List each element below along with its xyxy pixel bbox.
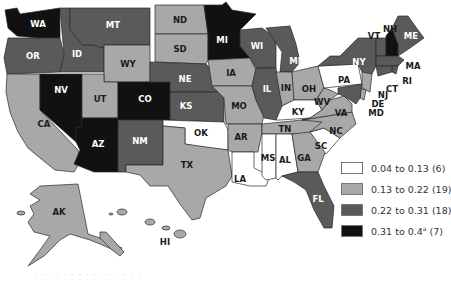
state-FL[interactable] [282,172,334,228]
label-OK: OK [194,129,208,138]
state-AK[interactable] [28,184,122,266]
label-WI: WI [251,42,264,51]
state-RI[interactable] [392,66,398,74]
label-MO: MO [231,102,247,111]
label-PA: PA [338,76,350,85]
label-IN: IN [281,84,291,93]
label-NC: NC [329,127,342,136]
legend-item-3: 0.22 to 0.31 (18) [341,204,451,216]
label-NM: NM [132,137,148,146]
label-VT: VT [368,32,380,41]
label-NH: NH [383,25,397,34]
legend-swatch-1 [341,162,363,174]
legend-label-3: 0.22 to 0.31 (18) [371,205,451,216]
legend-swatch-2 [341,183,363,195]
state-KS[interactable] [170,92,224,122]
label-MD: MD [368,109,384,118]
label-VA: VA [335,109,348,118]
legend-label-2: 0.13 to 0.22 (19) [371,184,451,195]
label-AL: AL [279,156,291,165]
label-WA: WA [30,20,46,29]
label-IA: IA [226,69,236,78]
label-IL: IL [263,85,272,94]
label-SD: SD [173,45,186,54]
label-MA: MA [405,62,420,71]
state-HI-island-2 [145,219,155,225]
label-ME: ME [404,32,418,41]
state-CT[interactable] [376,66,392,76]
label-ND: ND [173,16,187,25]
label-OR: OR [26,52,40,61]
label-MN: MI [216,36,228,45]
label-AK: AK [52,208,65,217]
label-MI: MI [289,57,301,66]
label-UT: UT [94,95,107,104]
label-OH: OH [302,85,316,94]
label-CA: CA [38,120,51,129]
legend-label-1: 0.04 to 0.13 (6) [371,163,445,174]
label-FL: FL [312,195,323,204]
label-NY: NY [352,58,365,67]
state-AK-island [17,211,25,215]
label-AR: AR [234,133,247,142]
label-WV: WV [314,98,330,107]
legend-item-4: 0.31 to 0.4a (7) [341,225,443,237]
label-ID: ID [72,50,82,59]
legend-label-4-range: 0.31 to 0.4 [371,226,423,237]
legend-item-1: 0.04 to 0.13 (6) [341,162,445,174]
label-TN: TN [279,125,292,134]
label-NE: NE [179,75,192,84]
label-MS: MS [261,154,276,163]
state-NM[interactable] [118,120,163,172]
legend-label-4-count: (7) [427,226,443,237]
footnote: · · · · · · · · · · · · · · · [34,271,142,279]
label-SC: SC [315,142,327,151]
state-HI-island-4 [174,230,186,238]
state-HI-island-1 [117,209,127,215]
legend-swatch-4 [341,225,363,237]
label-MT: MT [106,21,120,30]
legend-swatch-3 [341,204,363,216]
label-HI: HI [160,238,170,247]
state-MA[interactable] [376,56,404,66]
label-GA: GA [297,154,311,163]
legend-label-4: 0.31 to 0.4a (7) [371,225,443,237]
label-NV: NV [54,86,68,95]
legend-item-2: 0.13 to 0.22 (19) [341,183,451,195]
label-KS: KS [180,102,193,111]
state-HI-island-5 [109,213,113,215]
label-AZ: AZ [92,140,105,149]
label-LA: LA [234,175,246,184]
label-KY: KY [292,108,305,117]
label-TX: TX [181,161,193,170]
label-RI: RI [402,77,412,86]
state-HI-island-3 [162,226,170,230]
label-WY: WY [120,60,136,69]
label-CO: CO [138,95,151,104]
